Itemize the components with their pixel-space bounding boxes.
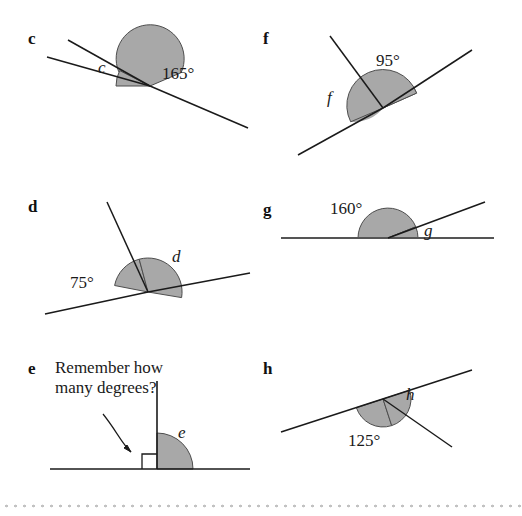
- diagram-c: 165° c: [0, 0, 261, 175]
- ray-f-down-left: [298, 108, 383, 155]
- angle-variable-d: d: [172, 247, 181, 266]
- diagram-h: 125° h: [261, 340, 522, 490]
- diagram-f: 95° f: [261, 0, 522, 175]
- angle-variable-c: c: [98, 58, 106, 77]
- diagram-g: 160° g: [261, 175, 522, 340]
- angle-value-95: 95°: [376, 51, 400, 70]
- angle-value-125: 125°: [348, 431, 380, 450]
- angle-value-160: 160°: [330, 199, 362, 218]
- diagram-f-svg: 95° f: [261, 0, 522, 175]
- diagram-h-svg: 125° h: [261, 340, 522, 490]
- angle-variable-f: f: [327, 88, 334, 107]
- sector-f-unknown: [347, 70, 417, 122]
- diagram-e-svg: e: [0, 340, 261, 490]
- angle-variable-e: e: [178, 423, 186, 442]
- diagram-d-svg: 75° d: [0, 175, 261, 340]
- sector-e-unknown: [157, 433, 193, 469]
- geometry-worksheet: c 165° c f 95° f d: [0, 0, 522, 516]
- ray-d-left: [45, 292, 148, 314]
- right-angle-square-icon: [142, 454, 157, 469]
- diagram-e: e: [0, 340, 261, 490]
- diagram-c-svg: 165° c: [0, 0, 261, 175]
- angle-value-75: 75°: [70, 273, 94, 292]
- angle-variable-g: g: [424, 221, 433, 240]
- diagram-g-svg: 160° g: [261, 175, 522, 340]
- angle-value-165: 165°: [162, 64, 194, 83]
- diagram-d: 75° d: [0, 175, 261, 340]
- bottom-dotted-divider: [0, 504, 522, 508]
- angle-variable-h: h: [406, 385, 415, 404]
- ray-c-right: [150, 86, 248, 128]
